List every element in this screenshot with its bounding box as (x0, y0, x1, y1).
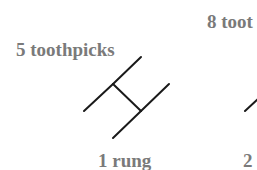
panel-1-rung-count: 1 rung (98, 151, 151, 170)
left-rail-lower-stick (245, 99, 257, 111)
panel-1-ladder (84, 57, 169, 138)
panel-2-ladder-partial (245, 99, 257, 111)
left-rail-lower-stick (84, 84, 113, 111)
right-rail-lower-stick (113, 111, 141, 138)
rung-stick (113, 84, 141, 111)
panel-2-rung-count: 2 (243, 151, 253, 170)
right-rail-upper-stick (141, 84, 169, 111)
ladder-diagram (0, 0, 257, 170)
left-rail-upper-stick (113, 57, 141, 84)
